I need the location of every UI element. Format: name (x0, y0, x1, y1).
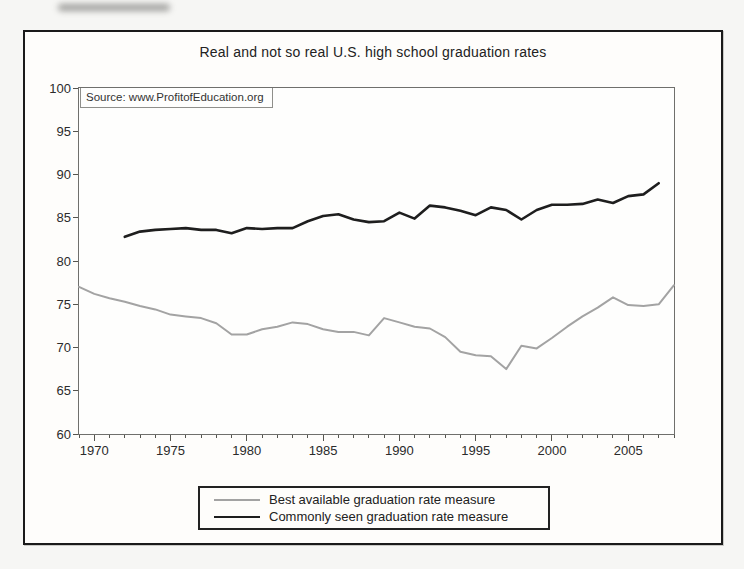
x-tickmark (170, 435, 171, 441)
chart-title: Real and not so real U.S. high school gr… (25, 44, 721, 60)
series-line-0 (79, 285, 674, 369)
y-tickmark (73, 390, 78, 391)
x-minor-tickmark (338, 435, 339, 438)
x-minor-tickmark (643, 435, 644, 438)
x-tick-label: 1995 (454, 443, 498, 458)
plot-area: Source: www.ProfitofEducation.org 100959… (78, 87, 675, 435)
x-minor-tickmark (414, 435, 415, 438)
y-tickmark (73, 261, 78, 262)
x-tick-label: 1975 (149, 443, 193, 458)
x-minor-tickmark (216, 435, 217, 438)
y-tick-label: 65 (37, 384, 71, 397)
x-tickmark (323, 435, 324, 441)
x-minor-tickmark (262, 435, 263, 438)
y-tick-label: 90 (37, 168, 71, 181)
x-minor-tickmark (155, 435, 156, 438)
legend-label: Commonly seen graduation rate measure (269, 509, 508, 524)
x-minor-tickmark (658, 435, 659, 438)
x-tickmark (246, 435, 247, 441)
x-minor-tickmark (536, 435, 537, 438)
y-tick-label: 85 (37, 211, 71, 224)
y-tick-label: 95 (37, 125, 71, 138)
y-tick-label: 75 (37, 298, 71, 311)
x-tick-label: 2005 (606, 443, 650, 458)
x-tick-label: 1985 (301, 443, 345, 458)
x-minor-tickmark (140, 435, 141, 438)
x-tick-label: 1980 (225, 443, 269, 458)
x-minor-tickmark (567, 435, 568, 438)
x-tickmark (551, 435, 552, 441)
x-tickmark (475, 435, 476, 441)
x-tickmark (628, 435, 629, 441)
y-tickmark (73, 304, 78, 305)
y-tick-label: 70 (37, 341, 71, 354)
legend-item-commonly-seen: Commonly seen graduation rate measure (200, 509, 548, 524)
y-tick-label: 80 (37, 255, 71, 268)
legend-label: Best available graduation rate measure (269, 492, 495, 507)
x-minor-tickmark (277, 435, 278, 438)
black-line-swatch (214, 516, 260, 518)
x-minor-tickmark (384, 435, 385, 438)
y-tickmark (73, 434, 78, 435)
x-tickmark (94, 435, 95, 441)
x-minor-tickmark (307, 435, 308, 438)
x-tickmark (399, 435, 400, 441)
y-tickmark (73, 131, 78, 132)
y-tick-label: 100 (37, 82, 71, 95)
x-minor-tickmark (445, 435, 446, 438)
y-tickmark (73, 217, 78, 218)
legend-box: Best available graduation rate measure C… (198, 486, 550, 530)
x-tick-label: 2000 (530, 443, 574, 458)
chart-figure: Real and not so real U.S. high school gr… (23, 30, 723, 545)
screenshot-stage: Real and not so real U.S. high school gr… (0, 0, 744, 569)
x-minor-tickmark (79, 435, 80, 438)
chart-canvas (79, 88, 674, 434)
x-minor-tickmark (582, 435, 583, 438)
y-tickmark (73, 174, 78, 175)
x-minor-tickmark (201, 435, 202, 438)
legend-item-best-available: Best available graduation rate measure (200, 492, 548, 507)
x-minor-tickmark (124, 435, 125, 438)
gray-line-swatch (214, 499, 260, 501)
y-tickmark (73, 88, 78, 89)
x-minor-tickmark (674, 435, 675, 438)
series-line-1 (125, 183, 659, 237)
x-minor-tickmark (185, 435, 186, 438)
x-minor-tickmark (368, 435, 369, 438)
x-minor-tickmark (597, 435, 598, 438)
scan-artifact (58, 4, 170, 11)
x-tick-label: 1990 (377, 443, 421, 458)
x-minor-tickmark (490, 435, 491, 438)
x-tick-label: 1970 (72, 443, 116, 458)
x-minor-tickmark (460, 435, 461, 438)
x-minor-tickmark (109, 435, 110, 438)
x-minor-tickmark (353, 435, 354, 438)
y-tick-label: 60 (37, 428, 71, 441)
x-minor-tickmark (521, 435, 522, 438)
x-minor-tickmark (292, 435, 293, 438)
x-minor-tickmark (231, 435, 232, 438)
x-minor-tickmark (612, 435, 613, 438)
y-tickmark (73, 347, 78, 348)
x-minor-tickmark (506, 435, 507, 438)
x-minor-tickmark (429, 435, 430, 438)
